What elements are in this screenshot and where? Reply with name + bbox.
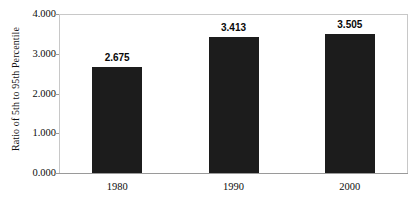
bar-value-label: 3.505 [320,18,380,31]
y-axis-tick-mark [55,133,59,134]
y-axis-tick-mark [55,54,59,55]
y-axis-tick-label: 3.000 [16,48,56,60]
y-axis-tick-mark [55,14,59,15]
x-axis-category-label: 2000 [320,180,380,193]
y-axis-tick-mark [55,173,59,174]
bar-value-label: 2.675 [87,51,147,64]
bar [325,34,375,173]
y-axis-tick-label-group: 0.0001.0002.0003.0004.000 [16,0,56,207]
x-axis-line [59,173,408,174]
x-axis-category-label: 1980 [87,180,147,193]
bar-value-label: 3.413 [204,21,264,34]
bar [209,37,259,173]
y-axis-tick-mark [55,94,59,95]
y-axis-tick-label: 2.000 [16,88,56,100]
x-axis-category-label: 1990 [204,180,264,193]
bar-chart: Ratio of 5th to 95th Percentile 0.0001.0… [0,0,418,207]
y-axis-tick-label: 1.000 [16,127,56,139]
y-axis-tick-label: 4.000 [16,8,56,20]
y-axis-tick-label: 0.000 [16,167,56,179]
plot-area [59,14,408,174]
bar [92,67,142,173]
